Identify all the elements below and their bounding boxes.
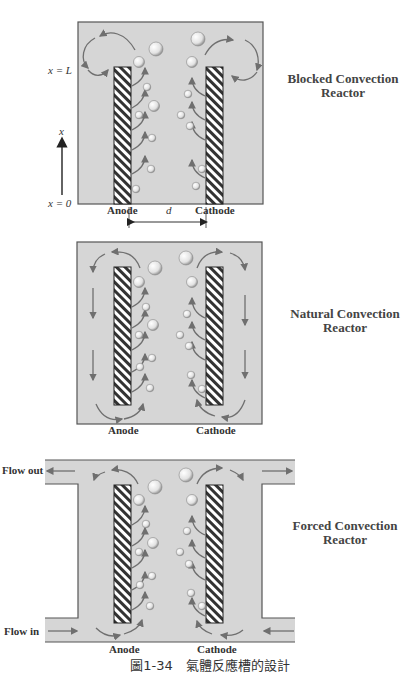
anode-label: Anode	[108, 424, 139, 436]
panel-title-blocked: Blocked Convection Reactor	[273, 72, 413, 100]
reactor-vessel	[78, 22, 263, 204]
title-line-1: Natural Convection	[275, 307, 415, 321]
title-line-1: Blocked Convection	[273, 72, 413, 86]
cathode-label: Cathode	[195, 204, 235, 216]
figure-caption: 圖1-34 氣體反應槽的設計	[0, 655, 420, 674]
panel-title-natural: Natural Convection Reactor	[275, 307, 415, 335]
gap-d-label: d	[166, 204, 172, 216]
forced-convection-reactor	[45, 460, 295, 642]
reactor-vessel	[45, 460, 295, 642]
x-axis-label: x	[59, 125, 64, 137]
x-equals-0-label: x = 0	[48, 197, 71, 209]
title-line-1: Forced Convection	[275, 519, 415, 533]
title-line-2: Reactor	[273, 86, 413, 100]
panel-title-forced: Forced Convection Reactor	[275, 519, 415, 547]
anode-electrode	[114, 267, 131, 405]
blocked-convection-reactor	[62, 22, 263, 228]
anode-electrode	[114, 485, 131, 623]
cathode-label: Cathode	[196, 424, 236, 436]
anode-label: Anode	[107, 204, 138, 216]
cathode-label: Cathode	[197, 643, 237, 655]
flow-in-label: Flow in	[4, 625, 39, 637]
title-line-2: Reactor	[275, 321, 415, 335]
reactor-vessel	[77, 242, 262, 424]
cathode-electrode	[206, 485, 223, 623]
anode-electrode	[114, 67, 131, 204]
x-equals-L-label: x = L	[48, 64, 72, 76]
cathode-electrode	[206, 267, 223, 405]
natural-convection-reactor	[77, 242, 262, 424]
anode-label: Anode	[109, 643, 140, 655]
title-line-2: Reactor	[275, 533, 415, 547]
flow-out-label: Flow out	[2, 464, 43, 476]
cathode-electrode	[206, 67, 223, 204]
